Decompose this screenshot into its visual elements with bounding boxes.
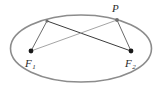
point-label-p-text: P — [112, 2, 119, 14]
point-label-focus1-letter: F — [25, 57, 32, 69]
ellipse-figure: P F1 F2 — [0, 0, 159, 95]
point-marker-focus2 — [129, 49, 134, 54]
point-label-focus2: F2 — [125, 58, 136, 71]
point-label-focus1-subscript: 1 — [32, 63, 36, 71]
point-marker-focus1 — [29, 49, 34, 54]
point-label-focus2-letter: F — [125, 57, 132, 69]
segment-point-p-to-focus1 — [31, 20, 117, 51]
ellipse-figure-canvas — [0, 0, 159, 95]
point-label-focus2-subscript: 2 — [132, 63, 136, 71]
segment-upperleft-to-focus2 — [47, 21, 131, 51]
point-marker-upperleft — [45, 19, 48, 22]
point-label-focus1: F1 — [25, 58, 36, 71]
point-label-p: P — [112, 3, 119, 14]
point-marker-p — [115, 18, 119, 22]
